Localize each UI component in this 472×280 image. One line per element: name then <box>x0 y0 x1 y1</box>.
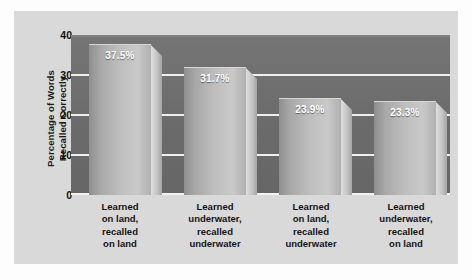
bar-side-face <box>436 102 447 195</box>
bar-learned-on-land-recalled-on-land[interactable]: 37.5% <box>89 45 151 195</box>
y-tick-label-20: 20 <box>48 109 72 121</box>
figure-root: Percentage of Words Recalled Correctly 4… <box>0 0 472 280</box>
y-axis-tick-labels: 40 30 20 10 0 <box>48 35 72 195</box>
bar-side-face <box>246 68 257 195</box>
y-tick-label-40: 40 <box>48 29 72 41</box>
bar-front-face <box>184 67 246 195</box>
y-tick-label-10: 10 <box>48 149 72 161</box>
bar-value-label-1: 37.5% <box>89 50 151 61</box>
x-category-label-3: Learned on land, recalled underwater <box>267 201 355 251</box>
x-category-label-4: Learned underwater, recalled on land <box>362 201 450 251</box>
bar-front-face <box>89 44 151 195</box>
bar-side-face <box>341 99 352 195</box>
y-tick-label-0: 0 <box>48 189 72 201</box>
bar-learned-on-land-recalled-underwater[interactable]: 23.9% <box>279 99 341 195</box>
bar-value-label-2: 31.7% <box>184 73 246 84</box>
bar-learned-underwater-recalled-underwater[interactable]: 31.7% <box>184 68 246 195</box>
x-axis-category-labels: Learned on land, recalled on land Learne… <box>71 201 450 257</box>
bar-learned-underwater-recalled-on-land[interactable]: 23.3% <box>374 102 436 195</box>
bar-value-label-3: 23.9% <box>279 104 341 115</box>
x-category-label-1: Learned on land, recalled on land <box>80 201 160 251</box>
bar-side-face <box>151 45 162 195</box>
y-tick-label-30: 30 <box>48 69 72 81</box>
x-category-label-2: Learned underwater, recalled underwater <box>171 201 259 251</box>
bar-value-label-4: 23.3% <box>374 107 436 118</box>
chart-frame: Percentage of Words Recalled Correctly 4… <box>14 11 458 264</box>
plot-area: 37.5% 31.7% 23.9% 23.3% <box>71 35 450 195</box>
